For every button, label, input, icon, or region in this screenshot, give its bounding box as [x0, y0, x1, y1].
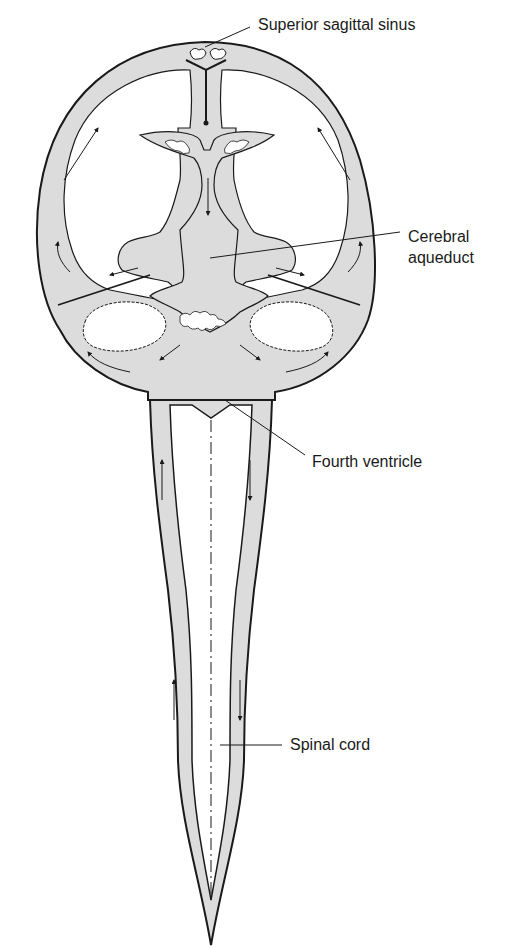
label-cerebral-aqueduct: Cerebral aqueduct [408, 226, 474, 268]
label-cerebral-aqueduct-line2: aqueduct [408, 247, 474, 268]
csf-circulation-diagram [0, 0, 518, 948]
label-superior-sagittal-sinus: Superior sagittal sinus [258, 15, 415, 35]
label-spinal-cord: Spinal cord [290, 735, 370, 755]
label-fourth-ventricle: Fourth ventricle [312, 452, 422, 472]
label-cerebral-aqueduct-line1: Cerebral [408, 226, 474, 247]
spinal-canal [150, 400, 272, 945]
